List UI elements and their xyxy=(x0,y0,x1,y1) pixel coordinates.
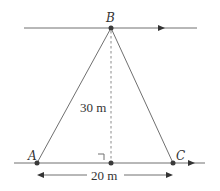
base-arrow-left-icon xyxy=(37,172,44,178)
point-c xyxy=(171,161,176,166)
label-a: A xyxy=(27,149,37,163)
point-b xyxy=(109,26,114,31)
base-label: 20 m xyxy=(91,168,117,183)
base-arrow-right-icon xyxy=(166,172,173,178)
top-line-arrow-icon xyxy=(158,25,165,31)
bottom-line-arrow-icon xyxy=(188,160,195,166)
right-angle-marker xyxy=(98,154,104,160)
side-bc xyxy=(111,28,173,163)
point-foot xyxy=(109,161,114,166)
triangle-diagram: B A C 30 m 20 m xyxy=(0,0,220,191)
label-c: C xyxy=(176,149,185,163)
side-ab xyxy=(37,28,111,163)
label-b: B xyxy=(105,11,115,25)
height-label: 30 m xyxy=(80,100,106,115)
